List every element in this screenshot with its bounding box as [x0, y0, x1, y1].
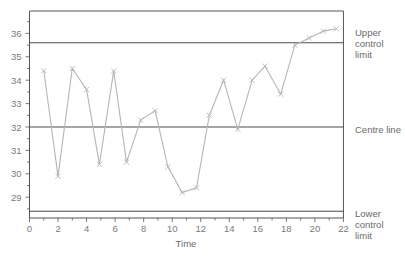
ucl-label-line: control — [355, 38, 384, 49]
upper-control-limit-label: Upper control limit — [355, 27, 384, 60]
x-tick-label: 0 — [27, 223, 32, 234]
y-tick-label: 29 — [11, 192, 22, 203]
y-tick-label: 31 — [11, 145, 22, 156]
x-tick-label: 22 — [338, 223, 349, 234]
x-marker-icon — [138, 117, 143, 122]
y-tick-label: 30 — [11, 168, 22, 179]
x-tick-label: 2 — [55, 223, 60, 234]
y-tick-label: 35 — [11, 51, 22, 62]
chart-plot-area: 29303132333435360246810121416182022 Time — [0, 0, 405, 262]
chart-frame — [30, 11, 344, 218]
x-tick-label: 8 — [141, 223, 146, 234]
x-tick-label: 4 — [84, 223, 89, 234]
x-axis-title: Time — [176, 238, 197, 249]
axis-ticks: 29303132333435360246810121416182022 — [11, 22, 349, 234]
y-tick-label: 33 — [11, 98, 22, 109]
control-chart: 29303132333435360246810121416182022 Time… — [0, 0, 405, 262]
y-tick-label: 34 — [11, 75, 22, 86]
y-tick-label: 32 — [11, 122, 22, 133]
data-series — [41, 26, 339, 195]
ucl-label-line: Upper — [355, 27, 384, 38]
x-marker-icon — [307, 35, 312, 40]
x-marker-icon — [180, 190, 185, 195]
data-line — [44, 29, 337, 193]
lcl-label-line: Lower — [355, 208, 384, 219]
y-tick-label: 36 — [11, 28, 22, 39]
lower-control-limit-label: Lower control limit — [355, 208, 384, 241]
lcl-label-line: limit — [355, 230, 384, 241]
x-marker-icon — [262, 64, 267, 69]
x-tick-label: 20 — [310, 223, 321, 234]
lcl-label-line: control — [355, 219, 384, 230]
x-tick-label: 18 — [281, 223, 292, 234]
x-tick-label: 16 — [253, 223, 264, 234]
ucl-label-line: limit — [355, 49, 384, 60]
x-tick-label: 14 — [224, 223, 235, 234]
centre-line-label: Centre line — [355, 124, 401, 135]
x-tick-label: 12 — [195, 223, 206, 234]
x-tick-label: 6 — [112, 223, 117, 234]
x-tick-label: 10 — [167, 223, 178, 234]
control-limit-lines — [30, 43, 344, 211]
centre-label-text: Centre line — [355, 124, 401, 135]
